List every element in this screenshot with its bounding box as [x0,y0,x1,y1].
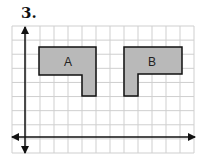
shape-a-label: A [64,55,72,69]
shape-b-label: B [148,55,156,69]
coordinate-grid-figure: A B [0,0,206,166]
grid-lines [12,26,194,153]
